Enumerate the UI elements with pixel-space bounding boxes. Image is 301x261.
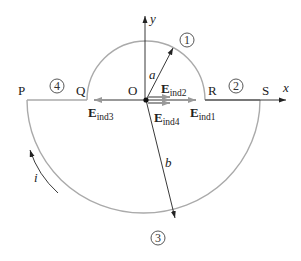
e-ind1-label: Eind1 bbox=[190, 105, 216, 122]
segment-4-marker: 4 bbox=[50, 79, 64, 93]
radius-b-label: b bbox=[165, 155, 172, 170]
point-P-label: P bbox=[18, 83, 25, 98]
segment-3-marker: 3 bbox=[151, 231, 165, 245]
origin-dot bbox=[143, 97, 148, 102]
svg-text:4: 4 bbox=[54, 79, 60, 93]
e-ind3-label: Eind3 bbox=[88, 105, 114, 122]
e-ind2-label: Eind2 bbox=[161, 81, 187, 98]
svg-text:1: 1 bbox=[184, 33, 190, 47]
current-label: i bbox=[34, 170, 38, 185]
current-loop bbox=[27, 41, 260, 213]
svg-text:2: 2 bbox=[233, 79, 239, 93]
radius-a-label: a bbox=[149, 67, 156, 82]
point-R-label: R bbox=[208, 83, 217, 98]
segment-3-large-arc bbox=[27, 100, 260, 213]
y-axis-label: y bbox=[148, 11, 156, 26]
point-O-label: O bbox=[128, 83, 137, 98]
segment-2-marker: 2 bbox=[229, 79, 243, 93]
segment-1-marker: 1 bbox=[180, 33, 194, 47]
loop-diagram: x y a b P Q O R S Eind2 Eind3 Eind4 Eind… bbox=[0, 0, 301, 261]
segment-1-small-arc bbox=[87, 41, 205, 100]
e-ind4-label: Eind4 bbox=[154, 110, 180, 127]
svg-text:3: 3 bbox=[155, 231, 161, 245]
x-axis-label: x bbox=[282, 80, 289, 95]
point-S-label: S bbox=[262, 83, 269, 98]
point-Q-label: Q bbox=[76, 83, 86, 98]
